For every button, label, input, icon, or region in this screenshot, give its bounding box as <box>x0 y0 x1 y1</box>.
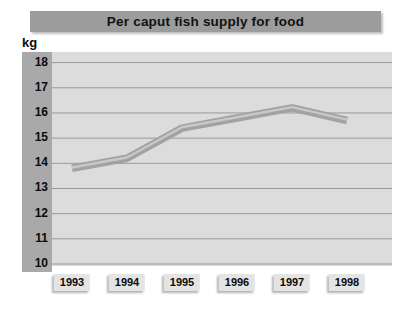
chart-figure: Per caput fish supply for food kg 181716… <box>0 0 396 312</box>
y-tick-label-17: 17 <box>22 81 48 93</box>
y-tick-label-18: 18 <box>22 56 48 68</box>
y-tick-label-15: 15 <box>22 131 48 143</box>
y-axis-unit-label: kg <box>22 35 37 50</box>
x-tick-label-1997: 1997 <box>274 274 310 291</box>
y-tick-label-16: 16 <box>22 106 48 118</box>
plot-area <box>52 52 392 266</box>
x-tick-label-1996: 1996 <box>219 274 255 291</box>
x-tick-label-1995: 1995 <box>164 274 200 291</box>
line-chart-canvas <box>52 52 392 266</box>
x-tick-label-1994: 1994 <box>109 274 145 291</box>
y-tick-label-12: 12 <box>22 207 48 219</box>
x-tick-label-1993: 1993 <box>54 274 90 291</box>
y-tick-label-14: 14 <box>22 156 48 168</box>
y-tick-label-11: 11 <box>22 232 48 244</box>
x-tick-label-1998: 1998 <box>329 274 365 291</box>
chart-title-bar: Per caput fish supply for food <box>30 11 381 32</box>
y-tick-label-13: 13 <box>22 181 48 193</box>
chart-title: Per caput fish supply for food <box>107 14 304 29</box>
y-tick-label-10: 10 <box>22 257 48 269</box>
